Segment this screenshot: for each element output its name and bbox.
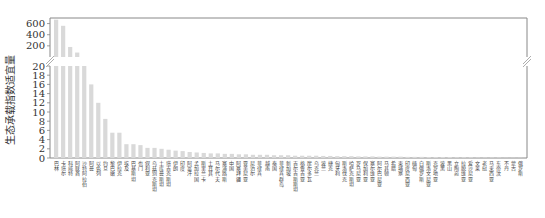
svg-text:斯: 斯 — [419, 176, 424, 183]
svg-text:腊: 腊 — [391, 165, 396, 172]
bar-chart: 20040060002468101214161820 巴林卡塔尔科威特阿联酋沙特… — [0, 0, 545, 218]
y-axis-ticks: 20040060002468101214161820 — [26, 18, 50, 163]
svg-text:度: 度 — [180, 165, 185, 172]
svg-text:汗: 汗 — [187, 170, 192, 177]
svg-text:列: 列 — [96, 170, 101, 177]
svg-text:20: 20 — [32, 61, 45, 72]
plot-frame — [50, 18, 527, 158]
svg-text:林: 林 — [54, 165, 59, 172]
svg-text:南: 南 — [265, 165, 270, 171]
svg-text:尔: 尔 — [250, 170, 255, 176]
svg-text:山: 山 — [447, 165, 452, 172]
y-axis-label: 生态承载指数适宜量 — [4, 55, 16, 145]
svg-text:尔: 尔 — [61, 170, 66, 176]
svg-text:莱: 莱 — [475, 165, 480, 172]
svg-text:亚: 亚 — [468, 176, 473, 182]
svg-text:亚: 亚 — [426, 181, 431, 187]
bars — [54, 20, 522, 158]
svg-text:坡: 坡 — [286, 170, 291, 177]
svg-text:瓦: 瓦 — [307, 176, 312, 183]
svg-text:寨: 寨 — [398, 170, 403, 176]
svg-text:亚: 亚 — [405, 181, 410, 187]
svg-text:朗: 朗 — [173, 165, 178, 172]
svg-text:亚: 亚 — [300, 176, 305, 182]
svg-text:600: 600 — [26, 18, 45, 29]
svg-text:岛: 岛 — [279, 181, 284, 188]
svg-text:国: 国 — [272, 165, 277, 172]
svg-text:宾: 宾 — [257, 170, 262, 177]
svg-text:曼: 曼 — [89, 165, 94, 171]
svg-text:坦: 坦 — [131, 176, 136, 182]
svg-text:特: 特 — [68, 170, 73, 176]
svg-text:兰: 兰 — [321, 165, 326, 171]
svg-text:亚: 亚 — [377, 181, 382, 187]
svg-text:坦: 坦 — [293, 186, 298, 192]
svg-text:国: 国 — [229, 165, 234, 172]
svg-text:亚: 亚 — [461, 176, 466, 182]
svg-text:克: 克 — [328, 165, 333, 172]
svg-text:兰: 兰 — [314, 170, 319, 176]
svg-text:坦: 坦 — [152, 186, 157, 192]
svg-text:坦: 坦 — [166, 181, 171, 187]
svg-text:嫩: 嫩 — [110, 170, 115, 177]
svg-text:其: 其 — [208, 170, 213, 177]
svg-text:黑: 黑 — [440, 165, 445, 172]
x-axis-labels: 巴林卡塔尔科威特阿联酋沙特阿拉伯阿曼以色列约旦黎巴嫩伊拉克埃及巴基斯坦也门叙利亚… — [54, 160, 523, 192]
svg-text:亚: 亚 — [356, 176, 361, 182]
svg-text:酋: 酋 — [75, 170, 80, 177]
svg-text:利: 利 — [335, 170, 340, 176]
svg-text:汶: 汶 — [496, 170, 501, 177]
svg-text:克: 克 — [342, 176, 347, 183]
svg-text:斯: 斯 — [518, 170, 523, 177]
svg-text:伯: 伯 — [82, 181, 87, 188]
svg-text:亚: 亚 — [370, 176, 375, 182]
svg-text:400: 400 — [26, 29, 45, 40]
svg-text:坦: 坦 — [349, 181, 354, 187]
svg-text:夫: 夫 — [215, 176, 220, 183]
svg-text:顿: 顿 — [384, 170, 389, 177]
svg-text:亚: 亚 — [243, 176, 248, 182]
svg-text:门: 门 — [138, 165, 143, 172]
svg-text:亚: 亚 — [433, 176, 438, 182]
svg-text:卡: 卡 — [201, 176, 206, 183]
svg-text:200: 200 — [26, 40, 45, 51]
svg-text:及: 及 — [124, 165, 129, 172]
svg-text:亚: 亚 — [363, 176, 368, 182]
svg-text:丹: 丹 — [504, 165, 509, 172]
svg-text:甸: 甸 — [412, 165, 417, 172]
svg-text:疆: 疆 — [236, 176, 241, 183]
svg-text:亚: 亚 — [145, 170, 150, 176]
svg-text:旦: 旦 — [103, 165, 108, 171]
svg-text:亚: 亚 — [489, 176, 494, 182]
svg-text:克: 克 — [117, 170, 122, 177]
svg-text:坦: 坦 — [159, 181, 164, 187]
svg-text:挝: 挝 — [482, 165, 487, 172]
svg-text:斯: 斯 — [222, 176, 227, 183]
axis-break-marks — [46, 56, 531, 67]
svg-text:古: 古 — [511, 165, 516, 172]
svg-text:国: 国 — [194, 176, 199, 183]
svg-text:宛: 宛 — [454, 170, 459, 177]
